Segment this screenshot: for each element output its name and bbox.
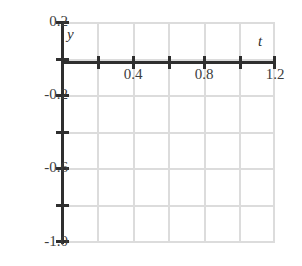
y-axis-tick-label: -0.6 <box>16 159 68 176</box>
gridline-horizontal <box>62 132 275 134</box>
y-axis-tick <box>56 58 69 61</box>
x-axis-tick <box>97 56 100 69</box>
x-axis-tick-label: 1.2 <box>255 66 295 83</box>
y-axis-variable-label: y <box>67 26 74 43</box>
y-axis-tick <box>56 204 69 207</box>
x-axis-tick-label: 0.8 <box>184 66 224 83</box>
gridline-horizontal <box>62 168 275 170</box>
x-axis-tick <box>168 56 171 69</box>
y-axis-tick-label: -1.0 <box>16 233 68 250</box>
x-axis-tick <box>239 56 242 69</box>
gridline-horizontal <box>62 95 275 97</box>
y-axis-tick <box>56 131 69 134</box>
gridline-horizontal <box>62 205 275 207</box>
gridline-horizontal <box>62 22 275 24</box>
x-axis-tick-label: 0.4 <box>113 66 153 83</box>
y-axis-tick-label: 0.2 <box>16 13 68 30</box>
y-axis-tick-label: -0.2 <box>16 86 68 103</box>
gridline-horizontal <box>62 241 275 243</box>
x-axis-variable-label: t <box>258 33 262 50</box>
chart-figure: 0.4 0.8 1.2 0.2 -0.2 -0.6 -1.0 y t <box>0 0 302 266</box>
